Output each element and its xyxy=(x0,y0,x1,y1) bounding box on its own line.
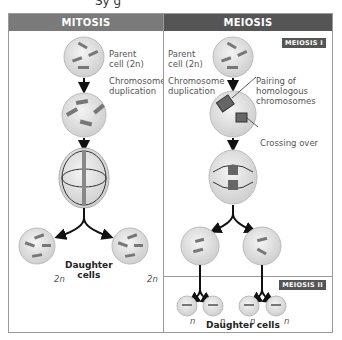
mitosis-daughter-cell-left xyxy=(19,228,55,264)
meiosis-i-daughter-left xyxy=(181,227,219,265)
mitosis-duplicated-cell xyxy=(62,93,106,137)
diagram-graphics xyxy=(0,0,342,340)
meiosis-parent-cell xyxy=(213,37,253,77)
mitosis-metaphase-cell xyxy=(59,148,109,208)
mitosis-daughter-cell-right xyxy=(112,228,148,264)
mitosis-parent-cell xyxy=(64,37,104,77)
meiosis-ii-daughter-cells xyxy=(177,296,286,316)
meiosis-i-daughter-right xyxy=(243,227,281,265)
meiosis-metaphase-cell xyxy=(209,150,257,204)
